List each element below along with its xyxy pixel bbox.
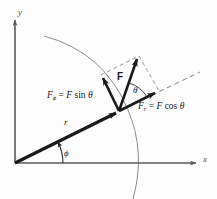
tangential-component-label: Fϕ = F sin θ	[47, 91, 93, 101]
radial-component-label: Fr = F cos θ	[138, 102, 184, 112]
polar-force-diagram: y x r F θ ϕ Fϕ = F sin θ Fr = F cos θ	[0, 0, 217, 199]
tangential-argument: θ	[88, 90, 93, 100]
x-axis-label: x	[203, 155, 207, 164]
constant-radius-arc	[44, 36, 138, 199]
force-vector-label: F	[117, 72, 123, 82]
diagram-canvas	[0, 0, 217, 199]
tangential-subscript: ϕ	[53, 94, 56, 101]
y-axis-label: y	[18, 8, 22, 17]
radial-function: cos	[165, 101, 178, 111]
theta-angle-arc	[129, 83, 147, 97]
radius-label: r	[64, 118, 68, 127]
phi-angle-label: ϕ	[64, 149, 69, 158]
radial-argument: θ	[180, 101, 185, 111]
tangential-magnitude: F	[66, 90, 72, 100]
tangential-equals: =	[59, 90, 64, 100]
tangential-component-vector	[103, 78, 119, 111]
radial-equals: =	[149, 101, 154, 111]
theta-angle-label: θ	[133, 86, 137, 95]
tangential-function: sin	[74, 90, 85, 100]
component-parallelogram	[101, 56, 159, 91]
radial-magnitude: F	[156, 101, 162, 111]
phi-angle-arc	[58, 142, 63, 163]
radial-subscript: r	[144, 105, 147, 112]
